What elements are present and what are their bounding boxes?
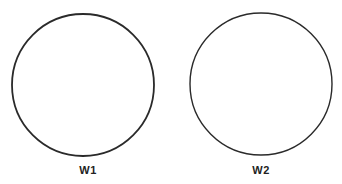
circles-svg <box>0 0 342 184</box>
circle-label-w1: W1 <box>68 163 108 177</box>
circle-label-w2: W2 <box>241 163 281 177</box>
circle-w2 <box>190 13 332 155</box>
circle-w1 <box>12 14 154 156</box>
